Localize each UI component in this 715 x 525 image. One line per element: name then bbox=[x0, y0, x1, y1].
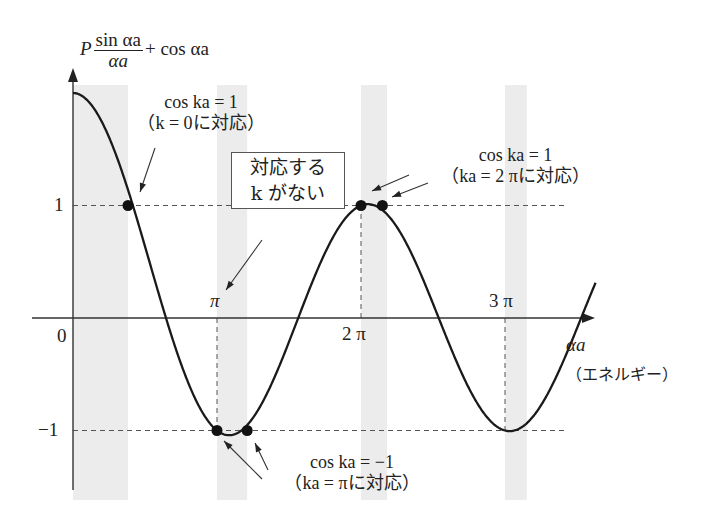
marked-point-1 bbox=[123, 200, 134, 211]
arrow-pi-b-head-icon bbox=[255, 443, 262, 452]
y-tick-label-minus-1: −1 bbox=[38, 419, 58, 441]
annotation-k0-line2: （k = 0に対応） bbox=[126, 113, 276, 134]
y-label-denominator: αa bbox=[94, 51, 143, 71]
marked-point-2 bbox=[211, 425, 222, 436]
y-label-suffix: + cos αa bbox=[145, 38, 209, 59]
arrow-2pi-b-head-icon bbox=[392, 191, 402, 197]
x-axis-arrow-icon bbox=[582, 313, 595, 323]
origin-label: 0 bbox=[57, 325, 67, 347]
annotation-kpi: cos ka = −1 （ka = πに対応） bbox=[272, 452, 432, 493]
y-label-prefix: P bbox=[80, 38, 92, 59]
x-axis-sublabel: （エネルギー） bbox=[566, 366, 678, 384]
annotation-k2pi-line2: （ka = 2 πに対応） bbox=[428, 166, 603, 187]
x-axis-label: αa bbox=[566, 334, 585, 356]
allowed-band-3 bbox=[361, 85, 387, 500]
allowed-band-2 bbox=[217, 85, 247, 500]
annotation-no-k-box: 対応する k がない bbox=[231, 152, 345, 209]
y-axis-label: Psin αaαa+ cos αa bbox=[80, 30, 209, 71]
x-tick-label-2pi: 2 π bbox=[342, 323, 366, 345]
annotation-k0-line1: cos ka = 1 bbox=[126, 92, 276, 113]
annotation-no-k-line2: k がない bbox=[240, 181, 336, 207]
y-axis-arrow-icon bbox=[68, 68, 78, 82]
allowed-band-1 bbox=[73, 85, 128, 500]
y-label-numerator: sin αa bbox=[94, 30, 143, 51]
y-label-fraction: sin αaαa bbox=[94, 30, 143, 71]
annotation-kpi-line1: cos ka = −1 bbox=[272, 452, 432, 473]
x-tick-label-3pi: 3 π bbox=[489, 290, 513, 312]
annotation-no-k-line1: 対応する bbox=[240, 155, 336, 181]
annotation-kpi-line2: （ka = πに対応） bbox=[272, 473, 432, 494]
marked-point-5 bbox=[377, 200, 388, 211]
band-structure-plot bbox=[0, 0, 715, 525]
x-tick-label-pi: π bbox=[210, 290, 220, 312]
marked-point-3 bbox=[242, 425, 253, 436]
annotation-k0: cos ka = 1 （k = 0に対応） bbox=[126, 92, 276, 133]
arrow-k0-head-icon bbox=[140, 182, 146, 192]
annotation-k2pi-line1: cos ka = 1 bbox=[428, 145, 603, 166]
y-tick-label-1: 1 bbox=[54, 194, 64, 216]
annotation-k2pi: cos ka = 1 （ka = 2 πに対応） bbox=[428, 145, 603, 186]
marked-point-4 bbox=[356, 200, 367, 211]
